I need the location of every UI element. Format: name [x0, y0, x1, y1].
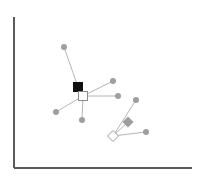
axes — [14, 17, 192, 168]
node-top-circle[interactable] — [61, 44, 67, 50]
node-left-circle[interactable] — [53, 109, 59, 115]
node-far-right-circle[interactable] — [133, 97, 139, 103]
scatter-plot-figure — [0, 0, 197, 185]
node-group — [53, 44, 149, 142]
edge-n1-n2 — [64, 47, 78, 87]
node-upper-right-circle[interactable] — [110, 78, 116, 84]
node-white-square-hub[interactable] — [79, 92, 88, 101]
node-lower-right-circle[interactable] — [143, 129, 149, 135]
node-right-circle[interactable] — [115, 93, 121, 99]
node-black-square-hub[interactable] — [74, 83, 83, 92]
plot-canvas — [0, 0, 197, 185]
node-bottom-circle[interactable] — [79, 117, 85, 123]
edge-n10-n8 — [113, 100, 136, 136]
